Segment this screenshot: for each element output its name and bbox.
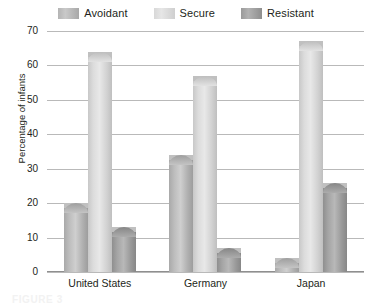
legend-swatch-secure: [154, 8, 175, 19]
bar-japan-secure: [299, 41, 323, 272]
plot-area: 706050403020100 United StatesGermanyJapa…: [47, 31, 364, 272]
bar-body: [88, 57, 112, 272]
bar-cap: [88, 52, 112, 62]
y-tick-50: 50: [14, 95, 38, 105]
legend-swatch-avoidant: [58, 8, 79, 19]
legend-label-avoidant: Avoidant: [84, 7, 127, 19]
bar-body: [193, 81, 217, 272]
bar-cap: [323, 183, 347, 193]
bar-cap: [299, 41, 323, 51]
bar-group-japan: [258, 31, 364, 272]
bar-united-states-resistant: [112, 227, 136, 272]
bar-germany-resistant: [217, 248, 241, 272]
bar-cap: [112, 227, 136, 237]
bar-cap: [275, 258, 299, 268]
chart-legend: Avoidant Secure Resistant: [0, 4, 372, 22]
bar-body: [64, 208, 88, 272]
bar-body: [299, 46, 323, 272]
bar-cap: [169, 155, 193, 165]
bar-united-states-secure: [88, 52, 112, 272]
bar-chart: Avoidant Secure Resistant Percentage of …: [0, 0, 372, 304]
bar-cap: [217, 248, 241, 258]
bar-japan-avoidant: [275, 258, 299, 272]
legend-label-resistant: Resistant: [267, 7, 314, 19]
legend-swatch-resistant: [241, 8, 262, 19]
bar-germany-avoidant: [169, 155, 193, 272]
x-axis-label-japan: Japan: [258, 277, 364, 289]
bar-group-united-states: [47, 31, 153, 272]
y-tick-60: 60: [14, 60, 38, 70]
gridline-0: [47, 272, 364, 273]
bar-japan-resistant: [323, 183, 347, 273]
legend-item-avoidant: Avoidant: [58, 7, 127, 19]
bar-cap: [193, 76, 217, 86]
bar-cap: [64, 203, 88, 213]
y-tick-0: 0: [14, 267, 38, 277]
bar-group-germany: [153, 31, 259, 272]
bar-body: [112, 232, 136, 272]
figure-caption: FIGURE 3: [12, 294, 63, 304]
x-axis-label-united-states: United States: [47, 277, 153, 289]
legend-item-secure: Secure: [154, 7, 215, 19]
bar-body: [169, 160, 193, 272]
bar-groups: [47, 31, 364, 272]
legend-label-secure: Secure: [180, 7, 215, 19]
x-axis-label-germany: Germany: [153, 277, 259, 289]
y-tick-70: 70: [14, 26, 38, 36]
y-tick-30: 30: [14, 164, 38, 174]
y-tick-20: 20: [14, 198, 38, 208]
legend-item-resistant: Resistant: [241, 7, 314, 19]
bar-germany-secure: [193, 76, 217, 272]
y-tick-10: 10: [14, 233, 38, 243]
y-tick-40: 40: [14, 129, 38, 139]
bar-body: [323, 188, 347, 273]
bar-united-states-avoidant: [64, 203, 88, 272]
